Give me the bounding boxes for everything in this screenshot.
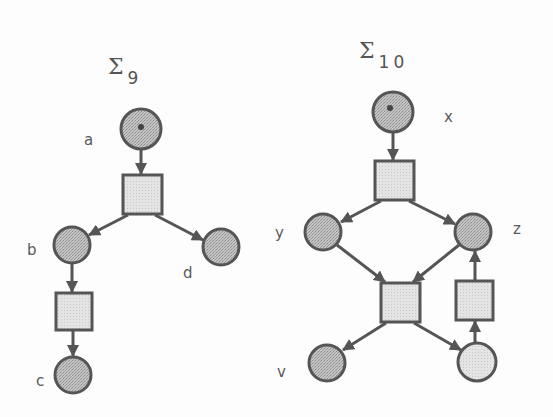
arc-t1-b [89,215,128,235]
place-z [455,214,491,250]
net-title-sigma10: Σ10 [359,38,408,72]
place-w [458,343,496,381]
place-b [54,227,90,263]
place-label-b: b [27,241,37,259]
arc-t1-z [409,201,455,224]
place-label-v: v [277,363,286,381]
place-label-z: z [513,220,521,238]
place-v [309,345,345,381]
place-label-d: d [183,264,193,282]
net-title-sigma9: Σ9 [108,54,138,88]
transition-t2 [381,283,420,322]
arc-z-t2 [413,245,459,282]
petri-net-diagram: Σ9 a b d c Σ10 [0,0,553,417]
arc-t1-y [341,201,381,222]
place-y [305,214,341,250]
place-label-a: a [84,131,93,149]
token-icon [138,124,144,130]
place-label-x: x [444,108,453,126]
net-sigma10: Σ10 x y z v [275,38,521,381]
arc-t2-w [414,323,461,350]
arc-t1-d [155,215,203,240]
place-d [203,229,239,265]
arc-y-t2 [337,245,385,282]
place-x [373,92,413,132]
place-c [55,357,91,393]
place-label-c: c [36,372,44,390]
arc-t2-v [343,323,386,350]
transition-t1 [123,175,162,214]
transition-t3 [456,281,493,320]
token-icon [387,105,393,111]
transition-t1 [375,161,414,200]
place-label-y: y [275,224,284,242]
transition-t2 [56,293,92,330]
net-sigma9: Σ9 a b d c [27,54,239,393]
